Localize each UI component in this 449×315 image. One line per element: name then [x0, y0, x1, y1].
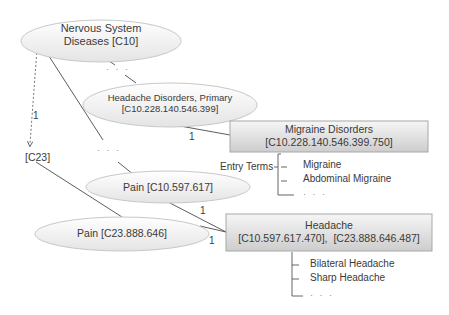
node-migraine-disorders-label: Migraine Disorders [C10.228.140.546.399.…: [230, 123, 428, 148]
ellipsis-c10-pain: · · ·: [97, 145, 121, 155]
node-nervous-system-line1: Nervous System: [21, 22, 181, 35]
entry-terms-label: Entry Terms: [220, 161, 273, 173]
node-migraine-line2: [C10.228.140.546.399.750]: [230, 136, 428, 149]
edge-label-hdp-migraine: 1: [189, 131, 195, 143]
edge-c10-c23-dashed: [30, 49, 37, 144]
node-hdp-line1: Headache Disorders, Primary: [83, 92, 257, 103]
headache-entry-terms-bracket: [292, 252, 303, 296]
migraine-entry-terms-bracket: [274, 154, 294, 195]
edge-dots-hdp: [125, 75, 136, 83]
node-nervous-system-label: Nervous System Diseases [C10]: [21, 22, 181, 48]
node-headache-line1: Headache: [226, 219, 432, 232]
headache-entry-term-more: · · ·: [310, 290, 334, 300]
node-c23-label[interactable]: [C23]: [25, 151, 50, 164]
edge-label-pain-c10-headache: 1: [200, 205, 206, 217]
headache-entry-term-1: Bilateral Headache: [310, 258, 395, 270]
migraine-entry-term-2: Abdominal Migraine: [303, 173, 391, 185]
node-nervous-system-line2: Diseases [C10]: [21, 35, 181, 48]
node-pain-c23-text: Pain [C23.888.646]: [77, 227, 167, 239]
headache-entry-term-2: Sharp Headache: [310, 272, 385, 284]
node-pain-c23-label: Pain [C23.888.646]: [35, 227, 209, 240]
node-pain-c10-label: Pain [C10.597.617]: [86, 181, 250, 194]
node-hdp-line2: [C10.228.140.546.399]: [83, 103, 257, 114]
edge-label-c10-c23: 1: [33, 110, 39, 122]
node-headache-disorders-primary-label: Headache Disorders, Primary [C10.228.140…: [83, 92, 257, 115]
node-migraine-line1: Migraine Disorders: [230, 123, 428, 136]
migraine-entry-term-more: · · ·: [303, 189, 327, 199]
node-headache-line2: [C10.597.617.470], [C23.888.646.487]: [226, 232, 432, 245]
node-pain-c10-text: Pain [C10.597.617]: [123, 181, 213, 193]
ellipsis-c10-hdp: · · ·: [106, 64, 130, 74]
node-c23-text: [C23]: [25, 151, 50, 163]
node-headache-label: Headache [C10.597.617.470], [C23.888.646…: [226, 219, 432, 244]
edge-label-pain-c23-headache: 1: [209, 235, 215, 247]
migraine-entry-term-1: Migraine: [303, 159, 341, 171]
